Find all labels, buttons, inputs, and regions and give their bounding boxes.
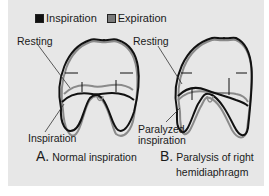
caption-b-line2: hemidiaphragm xyxy=(176,167,248,178)
caption-a: A. Normal inspiration xyxy=(36,151,137,163)
caption-a-letter: A. xyxy=(36,148,49,164)
label-resting-a: Resting xyxy=(17,36,53,47)
caption-b-text-line1: Paralysis of right xyxy=(176,151,254,163)
diagram-normal-inspiration xyxy=(38,39,139,135)
caption-b: B. Paralysis of right xyxy=(160,151,254,163)
caption-a-text: Normal inspiration xyxy=(52,151,137,163)
caption-b-letter: B. xyxy=(160,148,173,164)
label-paralyzed-line2: inspiration xyxy=(138,135,186,146)
label-inspiration-a: Inspiration xyxy=(28,133,76,144)
label-resting-b: Resting xyxy=(133,36,169,47)
